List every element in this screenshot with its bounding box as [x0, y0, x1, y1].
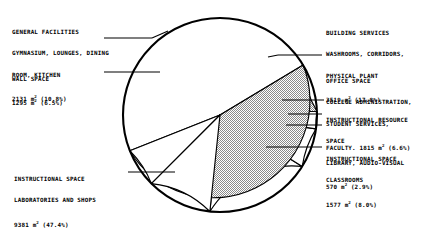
label-building-services-line1: BUILDING SERVICES: [326, 30, 404, 37]
label-office-space-line1: OFFICE SPACE: [326, 78, 412, 85]
label-wall-space-value: 1295 m2 (6.5%): [12, 97, 63, 107]
label-instructional-labs-value: 9381 m2 (47.4%): [14, 219, 96, 229]
label-wall-space-line1: WALL SPACE: [12, 76, 63, 83]
label-instructional-classrooms: INSTRUCTIONAL SPACE CLASSROOMS 1577 m2 (…: [326, 142, 397, 223]
label-instructional-labs-line2: LABORATORIES AND SHOPS: [14, 197, 96, 204]
label-instructional-labs: INSTRUCTIONAL SPACE LABORATORIES AND SHO…: [14, 162, 96, 230]
label-general-facilities-line2: GYMNASIUM, LOUNGES, DINING: [12, 50, 109, 57]
label-instructional-classrooms-line1: INSTRUCTIONAL SPACE: [326, 156, 397, 163]
label-instructional-classrooms-line2: CLASSROOMS: [326, 177, 397, 184]
leader-building-services-tail: [268, 55, 278, 57]
label-instructional-labs-line1: INSTRUCTIONAL SPACE: [14, 176, 96, 183]
label-building-services-line2: WASHROOMS, CORRIDORS,: [326, 51, 404, 58]
label-wall-space: WALL SPACE 1295 m2 (6.5%): [12, 62, 63, 122]
label-instructional-resource-line1: INSTRUCTIONAL RESOURCE: [326, 117, 408, 124]
label-general-facilities-line1: GENERAL FACILITIES: [12, 29, 109, 36]
pie-chart-figure: GENERAL FACILITIES GYMNASIUM, LOUNGES, D…: [0, 0, 444, 230]
label-instructional-classrooms-value: 1577 m2 (8.0%): [326, 199, 397, 209]
